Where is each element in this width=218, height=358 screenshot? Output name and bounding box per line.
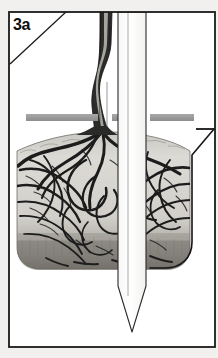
root-ball-spade-illustration [0,0,218,358]
soil-line-bar-gap [112,114,118,121]
figure-label: 3a [13,17,30,33]
figure-panel-3a: 3a [0,0,218,358]
spade-blade [118,12,146,332]
soil-line-bar-left [26,114,98,121]
soil-line-bar-right [150,114,194,121]
